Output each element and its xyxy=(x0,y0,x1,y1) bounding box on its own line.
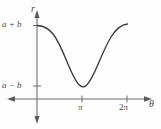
x-tick-label-pi: π xyxy=(78,103,83,112)
plot-figure: r θ a + b a − b π 2π xyxy=(0,0,161,129)
y-axis-down-arrowhead xyxy=(34,116,39,124)
y-tick-label-lower: a − b xyxy=(2,81,22,90)
y-tick-label-upper: a + b xyxy=(2,20,22,29)
curve-r-equals-a-minus-b-cos-theta xyxy=(38,24,128,87)
x-axis-left-arrowhead xyxy=(7,96,15,101)
x-axis-label: θ xyxy=(149,99,154,109)
x-tick-label-2pi: 2π xyxy=(119,103,128,112)
y-axis-up-arrowhead xyxy=(34,10,39,18)
y-axis-label: r xyxy=(31,4,35,14)
